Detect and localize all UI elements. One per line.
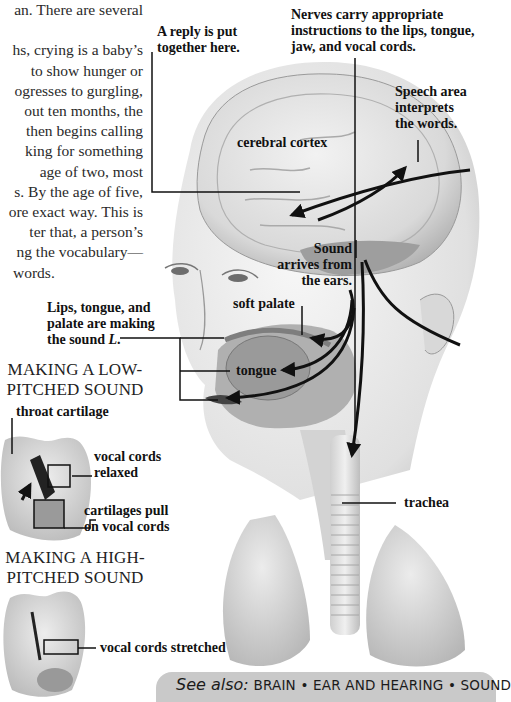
body-line: ter that, a person’s (0, 222, 143, 242)
body-line: k. (0, 20, 143, 40)
body-line: ng the vocabulary— (0, 242, 143, 262)
label-line: relaxed (94, 465, 161, 481)
label-lips-tongue-palate: Lips, tongue, and palate are making the … (47, 300, 155, 348)
see-also-text: See also: BRAIN • EAR AND HEARING • SOUN… (176, 675, 511, 694)
see-also-link-brain[interactable]: BRAIN (253, 677, 295, 693)
label-italic-letter: L (108, 332, 117, 347)
body-line: out ten months, the (0, 101, 143, 121)
label-tongue: tongue (236, 363, 276, 379)
label-nerves: Nerves carry appropriate instructions to… (291, 7, 475, 55)
label-line: together here. (157, 40, 240, 56)
body-line: words. (0, 263, 143, 283)
body-line: s. By the age of five, (0, 182, 143, 202)
label-line: the sound L. (47, 332, 155, 348)
body-line: to show hunger or (0, 61, 143, 81)
label-vocal-cords-stretched: vocal cords stretched (100, 640, 226, 656)
label-cartilages-pull: cartilages pull on vocal cords (84, 503, 170, 535)
label-cerebral-cortex: cerebral cortex (237, 135, 327, 151)
label-text: . (117, 332, 121, 347)
label-line: arrives from (277, 257, 352, 273)
see-also-link-ear-and-hearing[interactable]: EAR AND HEARING (313, 677, 443, 693)
label-speech-area: Speech area interprets the words. (395, 84, 467, 132)
label-line: cartilages pull (84, 503, 170, 519)
larynx-high-pitch (3, 592, 85, 697)
label-line: A reply is put (157, 24, 240, 40)
label-line: the words. (395, 116, 467, 132)
label-trachea: trachea (404, 495, 449, 511)
label-text: the sound (47, 332, 108, 347)
article-body-text: an. There are several k. hs, crying is a… (0, 0, 143, 283)
caption-line: MAKING A HIGH- (0, 548, 150, 568)
body-line: king for something (0, 141, 143, 161)
caption-line: PITCHED SOUND (0, 568, 150, 588)
label-line: Nerves carry appropriate (291, 7, 475, 23)
body-line: an. There are several (0, 0, 143, 20)
body-line: age of two, most (0, 162, 143, 182)
body-line: ogresses to gurgling, (0, 81, 143, 101)
caption-line: MAKING A LOW- (0, 360, 150, 380)
label-line: Sound (277, 241, 352, 257)
label-line: jaw, and vocal cords. (291, 39, 475, 55)
bullet-separator: • (448, 677, 456, 693)
body-line: ore exact way. This is (0, 202, 143, 222)
body-line: then begins calling (0, 121, 143, 141)
label-vocal-cords-relaxed: vocal cords relaxed (94, 449, 161, 481)
label-line: the ears. (277, 273, 352, 289)
label-line: instructions to the lips, tongue, (291, 23, 475, 39)
bullet-separator: • (300, 677, 308, 693)
label-reply: A reply is put together here. (157, 24, 240, 56)
label-line: Lips, tongue, and (47, 300, 155, 316)
label-line: Speech area (395, 84, 467, 100)
label-sound-arrives: Sound arrives from the ears. (277, 241, 352, 289)
label-line: on vocal cords (84, 519, 170, 535)
larynx-low-pitch (1, 436, 91, 540)
see-also-link-sound[interactable]: SOUND (461, 677, 511, 693)
label-throat-cartilage: throat cartilage (16, 404, 109, 420)
label-line: vocal cords (94, 449, 161, 465)
caption-line: PITCHED SOUND (0, 380, 150, 400)
label-soft-palate: soft palate (233, 296, 295, 312)
body-line: hs, crying is a baby’s (0, 40, 143, 60)
label-line: interprets (395, 100, 467, 116)
see-also-prefix: See also: (176, 675, 249, 694)
caption-low-pitched: MAKING A LOW- PITCHED SOUND (0, 360, 150, 400)
caption-high-pitched: MAKING A HIGH- PITCHED SOUND (0, 548, 150, 588)
label-line: palate are making (47, 316, 155, 332)
